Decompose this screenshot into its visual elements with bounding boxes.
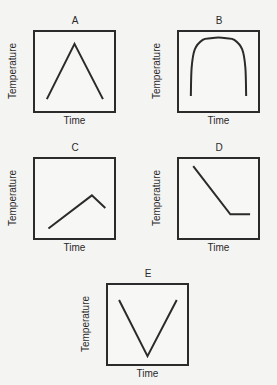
- chart-panel-c: C Temperature Time: [7, 142, 117, 260]
- plot-area: [33, 30, 116, 113]
- plot-svg: [179, 32, 258, 111]
- chart-panel-a: A Temperature Time: [7, 15, 117, 133]
- chart-title: C: [7, 142, 117, 154]
- plot-svg: [35, 32, 114, 111]
- chart-title: B: [151, 15, 261, 27]
- x-axis-label: Time: [177, 242, 260, 254]
- x-axis-label: Time: [106, 368, 189, 380]
- plot-area: [106, 283, 189, 366]
- plot-area: [177, 30, 260, 113]
- chart-panel-b: B Temperature Time: [151, 15, 261, 133]
- plot-svg: [35, 159, 114, 238]
- x-axis-label: Time: [33, 115, 116, 127]
- chart-title: A: [7, 15, 117, 27]
- figure: { "chart_data": [ { "id": "a", "type": "…: [0, 0, 277, 385]
- chart-title: D: [151, 142, 261, 154]
- temperature-curve: [119, 300, 177, 356]
- x-axis-label: Time: [33, 242, 116, 254]
- plot-area: [33, 157, 116, 240]
- plot-svg: [108, 285, 187, 364]
- chart-panel-e: E Temperature Time: [80, 268, 190, 385]
- temperature-curve: [47, 44, 103, 99]
- chart-title: E: [80, 268, 190, 280]
- plot-area: [177, 157, 260, 240]
- y-axis-label: Temperature: [7, 170, 19, 226]
- y-axis-label: Temperature: [7, 43, 19, 99]
- temperature-curve: [193, 166, 250, 214]
- plot-svg: [179, 159, 258, 238]
- chart-panel-d: D Temperature Time: [151, 142, 261, 260]
- temperature-curve: [191, 38, 246, 96]
- x-axis-label: Time: [177, 115, 260, 127]
- y-axis-label: Temperature: [151, 43, 163, 99]
- y-axis-label: Temperature: [151, 170, 163, 226]
- y-axis-label: Temperature: [80, 296, 92, 352]
- temperature-curve: [48, 195, 105, 228]
